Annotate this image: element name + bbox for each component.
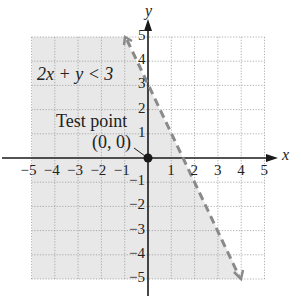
x-tick-label: 1 xyxy=(167,162,175,179)
inequality-label: 2x + y < 3 xyxy=(37,64,113,85)
x-tick-label: 2 xyxy=(191,162,199,179)
test-point-label: Test point xyxy=(56,111,127,132)
x-axis-label: x xyxy=(282,146,289,164)
coordinate-plane xyxy=(0,0,301,298)
y-tick-label: −5 xyxy=(129,269,145,286)
y-tick-label: 3 xyxy=(138,75,146,92)
x-tick-label: −2 xyxy=(90,162,106,179)
x-axis-arrow-icon xyxy=(266,154,278,162)
y-axis-label: y xyxy=(145,2,152,20)
x-tick-label: 3 xyxy=(214,162,222,179)
x-tick-label: −4 xyxy=(44,162,60,179)
y-tick-label: −3 xyxy=(129,221,145,238)
x-tick-label: 4 xyxy=(237,162,245,179)
x-tick-label: −3 xyxy=(67,162,83,179)
y-tick-label: −2 xyxy=(129,196,145,213)
test-point-coords: (0, 0) xyxy=(92,132,131,153)
y-tick-label: −1 xyxy=(129,172,145,189)
y-tick-label: 1 xyxy=(138,124,146,141)
y-tick-label: 5 xyxy=(138,27,146,44)
x-tick-label: 5 xyxy=(261,162,269,179)
y-tick-label: 2 xyxy=(138,100,146,117)
x-tick-label: −5 xyxy=(21,162,37,179)
x-tick-label: −1 xyxy=(114,162,130,179)
test-point-marker xyxy=(144,154,153,163)
y-tick-label: 4 xyxy=(138,51,146,68)
y-tick-label: −4 xyxy=(129,245,145,262)
